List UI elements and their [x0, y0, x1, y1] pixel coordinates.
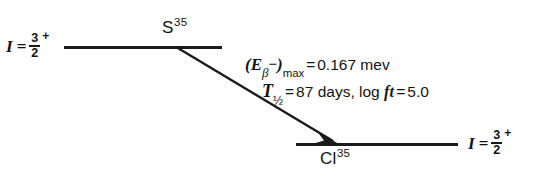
- half-subscript: ½: [273, 94, 283, 108]
- halflife-symbol-T: T: [262, 81, 273, 101]
- halflife-and-logft-annotation: T½=87 days, log ft=5.0: [262, 82, 429, 100]
- energy-unit: mev: [360, 56, 389, 73]
- log-word: log: [359, 83, 380, 100]
- halflife-unit: days: [318, 83, 351, 100]
- parity-sign: +: [42, 30, 49, 42]
- nuclide-symbol: Cl: [320, 149, 336, 168]
- nuclide-label-parent: S35: [162, 19, 187, 36]
- spin-parity-label-daughter: I = 3 2 +: [468, 129, 511, 157]
- parity-sign: +: [504, 127, 511, 139]
- equals-sign: =: [17, 38, 27, 55]
- spin-numerator: 3: [493, 129, 500, 142]
- charge-sign: −: [269, 56, 278, 72]
- ft-symbol: ft: [384, 83, 394, 100]
- spin-denominator: 2: [493, 144, 500, 157]
- spin-parity-label-parent: I = 3 2 +: [6, 32, 49, 60]
- spin-symbol-I: I: [468, 135, 475, 152]
- spin-denominator: 2: [31, 47, 38, 60]
- energy-value: 0.167: [317, 56, 356, 73]
- energy-level-line-parent: [64, 46, 222, 49]
- equals-sign: =: [304, 56, 317, 73]
- spin-symbol-I: I: [6, 38, 13, 55]
- spin-numerator: 3: [31, 32, 38, 45]
- decay-scheme-diagram: I = 3 2 + I = 3 2 + S35 Cl35 (Eβ−)max=0.…: [0, 0, 543, 182]
- spin-fraction: 3 2: [491, 129, 502, 157]
- max-subscript: max: [283, 67, 304, 79]
- annotation-separator: ,: [350, 83, 354, 100]
- halflife-value: 87: [296, 83, 313, 100]
- nuclide-mass-number: 35: [337, 147, 350, 159]
- close-paren: ): [277, 55, 283, 74]
- beta-endpoint-energy-annotation: (Eβ−)max=0.167 mev: [245, 56, 390, 73]
- nuclide-label-daughter: Cl35: [320, 150, 350, 167]
- equals-sign: =: [479, 135, 489, 152]
- equals-sign: =: [283, 83, 296, 100]
- energy-symbol-E: E: [251, 55, 262, 74]
- beta-subscript: β: [262, 65, 268, 80]
- spin-fraction: 3 2: [29, 32, 40, 60]
- energy-level-line-daughter: [296, 143, 458, 146]
- nuclide-symbol: S: [162, 18, 174, 37]
- nuclide-mass-number: 35: [174, 16, 187, 28]
- logft-value: 5.0: [407, 83, 429, 100]
- equals-sign: =: [394, 83, 407, 100]
